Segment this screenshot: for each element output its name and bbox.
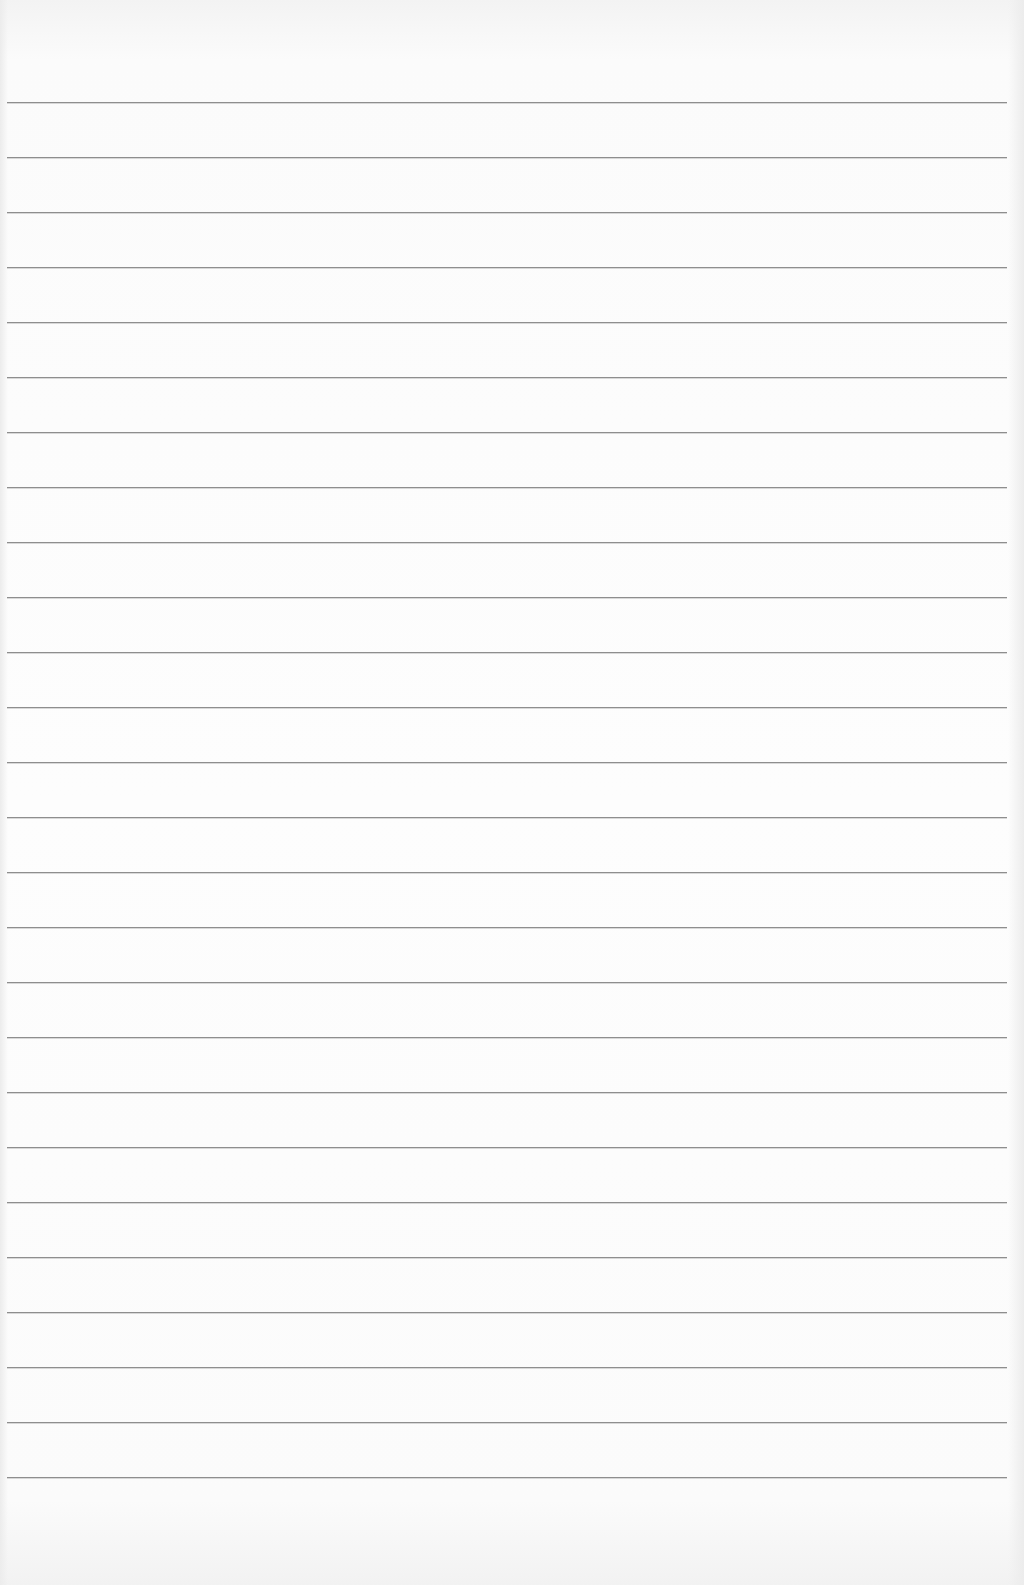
ruled-line	[7, 652, 1007, 653]
ruled-line	[7, 597, 1007, 598]
ruled-line	[7, 707, 1007, 708]
ruled-line	[7, 267, 1007, 268]
ruled-line	[7, 542, 1007, 543]
ruled-line	[7, 1312, 1007, 1313]
ruled-line	[7, 927, 1007, 928]
ruled-line	[7, 982, 1007, 983]
ruled-line	[7, 1037, 1007, 1038]
ruled-line	[7, 102, 1007, 103]
ruled-line	[7, 377, 1007, 378]
lined-paper-sheet	[0, 0, 1024, 1585]
ruled-line	[7, 872, 1007, 873]
paper-left-edge-shadow	[0, 0, 8, 1585]
ruled-line	[7, 322, 1007, 323]
ruled-line	[7, 1147, 1007, 1148]
ruled-line	[7, 1257, 1007, 1258]
ruled-line	[7, 1092, 1007, 1093]
ruled-line	[7, 1367, 1007, 1368]
ruled-line	[7, 762, 1007, 763]
ruled-line	[7, 1422, 1007, 1423]
ruled-line	[7, 1477, 1007, 1478]
ruled-line	[7, 487, 1007, 488]
ruled-line	[7, 817, 1007, 818]
ruled-line	[7, 1202, 1007, 1203]
paper-right-edge-shadow	[1008, 0, 1024, 1585]
ruled-line	[7, 212, 1007, 213]
ruled-line	[7, 157, 1007, 158]
ruled-line	[7, 432, 1007, 433]
